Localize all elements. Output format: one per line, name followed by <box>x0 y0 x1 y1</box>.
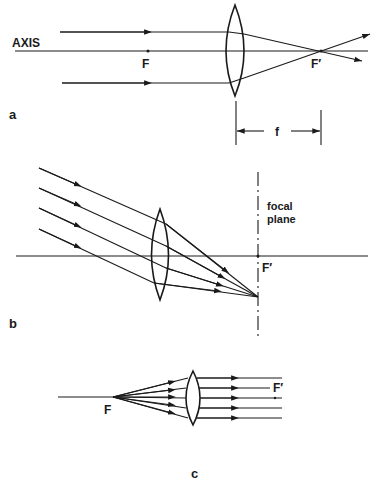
back-focus-label: F′ <box>273 381 283 395</box>
arrow-icon <box>39 168 78 185</box>
arrow-icon <box>166 224 226 271</box>
panel-label-a: a <box>9 107 17 122</box>
arrow-icon <box>166 268 220 285</box>
front-focus-label: F <box>142 57 149 71</box>
arrow-icon <box>39 188 78 205</box>
panel-label-c: c <box>191 466 198 481</box>
arrow-icon <box>39 229 78 247</box>
front-focus-label: F <box>104 403 111 417</box>
arrow-icon <box>39 208 78 226</box>
focal-plane-label-line2: plane <box>267 213 296 225</box>
focal-plane-label-line1: focal <box>267 200 293 212</box>
panel-c: F F′ c <box>58 371 283 481</box>
arrow-icon <box>113 382 172 397</box>
focal-length-label: f <box>275 125 280 139</box>
arrow-icon <box>113 390 172 397</box>
converging-lens <box>152 209 169 300</box>
panel-a: AXIS F F′ a f <box>9 5 370 145</box>
back-focus-point <box>274 397 276 399</box>
axis-label: AXIS <box>12 36 40 50</box>
lens-optics-diagram: AXIS F F′ a f focal <box>0 0 377 484</box>
back-focus-label: F′ <box>262 261 272 275</box>
front-focus-point <box>147 50 150 53</box>
panel-b: focal plane F′ b <box>9 168 368 340</box>
refracted-ray-lower <box>244 34 370 78</box>
converging-lens <box>186 371 200 425</box>
back-focus-point <box>319 49 322 52</box>
back-focus-point <box>257 255 260 258</box>
back-focus-label: F′ <box>311 57 321 71</box>
panel-label-b: b <box>9 316 17 331</box>
